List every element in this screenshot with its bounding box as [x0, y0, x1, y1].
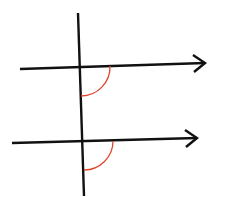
transversal-line: [78, 13, 84, 196]
angle-arc-bottom: [84, 141, 113, 170]
parallel-line-bottom: [12, 130, 197, 147]
angle-arc-top: [81, 66, 110, 96]
parallel-lines-diagram: [0, 0, 227, 197]
parallel-line-top: [20, 55, 205, 72]
